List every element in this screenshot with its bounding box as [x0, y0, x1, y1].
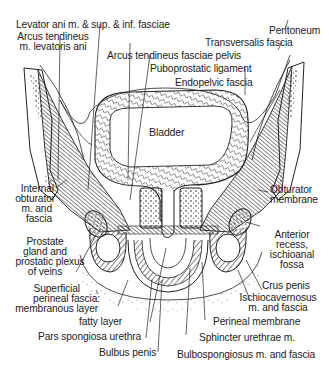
label-crus-penis: Crus penis [262, 280, 310, 291]
label-puboprostatic-ligament: Puboprostatic ligament [150, 63, 251, 74]
label-arcus-levatoris-2: m. levatoris ani [13, 41, 93, 52]
prostate-right-lobe [180, 188, 202, 228]
label-obturator-membrane-2: membrane [270, 194, 318, 205]
label-perineal-membrane: Perineal membrane [213, 316, 300, 327]
label-sphincter-urethrae: Sphincter urethrae m. [199, 332, 295, 343]
label-superficial-3: membranous layer [0, 303, 98, 314]
label-bladder: Bladder [149, 127, 185, 138]
label-internal-obturator-4: fascia [0, 213, 52, 224]
label-pars-spongiosa-urethra: Pars spongiosa urethra [38, 331, 141, 342]
label-anterior-recess-4: fossa [262, 259, 322, 270]
label-prostate-4: of veins [10, 266, 80, 277]
label-bulbus-penis: Bulbus penis [99, 347, 156, 358]
anatomy-figure: Levator ani m. & sup. & inf. fasciae Arc… [0, 0, 329, 372]
label-bulbospongiosus: Bulbospongiosus m. and fascia [177, 349, 315, 360]
label-arcus-fasciae-pelvis: Arcus tendineus fasciae pelvis [107, 50, 241, 61]
label-peritoneum: Peritoneum [269, 25, 320, 36]
label-fatty-layer: fatty layer [79, 316, 122, 327]
label-transversalis-fascia: Transversalis fascia [205, 37, 293, 48]
label-endopelvic-fascia: Endopelvic fascia [175, 77, 253, 88]
label-ischiocavernosus-2: m. and fascia [228, 302, 328, 313]
prostate-left-lobe [140, 188, 162, 228]
label-levator-ani: Levator ani m. & sup. & inf. fasciae [16, 19, 170, 30]
